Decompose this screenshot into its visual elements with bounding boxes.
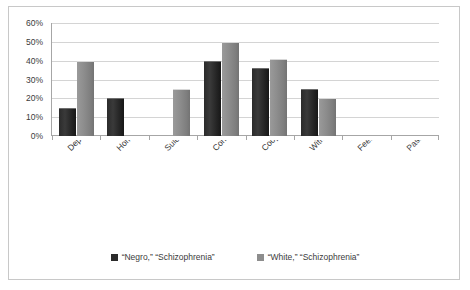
bar-group bbox=[52, 23, 100, 136]
x-axis-labels: DepressedHomosexual, sex role confusion,… bbox=[9, 140, 461, 240]
bar-group bbox=[342, 23, 390, 136]
bar-group bbox=[246, 23, 294, 136]
bar-group bbox=[197, 23, 245, 136]
x-tick-label: Confused bbox=[211, 140, 243, 153]
x-tick-label: Depressed bbox=[66, 140, 101, 153]
chart-legend: “Negro,” “Schizophrenia”“White,” “Schizo… bbox=[9, 253, 461, 262]
bar-group bbox=[294, 23, 342, 136]
y-tick-label: 30% bbox=[26, 75, 43, 84]
bar bbox=[222, 42, 239, 136]
bar bbox=[173, 89, 190, 136]
y-tick-label: 10% bbox=[26, 113, 43, 122]
y-tick-label: 50% bbox=[26, 38, 43, 47]
bar-group bbox=[149, 23, 197, 136]
legend-entry[interactable]: “White,” “Schizophrenia” bbox=[257, 253, 360, 262]
bar bbox=[301, 89, 318, 136]
x-tick-label: Passive bbox=[405, 140, 432, 153]
legend-swatch-icon bbox=[257, 254, 264, 261]
x-tick-label: Cooperative bbox=[260, 140, 298, 153]
bar bbox=[252, 68, 269, 136]
bar bbox=[59, 108, 76, 136]
chart-figure: 60%50%40%30%20%10%0% DepressedHomosexual… bbox=[8, 6, 460, 280]
y-tick-label: 0% bbox=[31, 132, 43, 141]
bar bbox=[77, 61, 94, 136]
y-tick-label: 60% bbox=[26, 19, 43, 28]
x-tick-label: Homosexual, sex role confusion, bbox=[115, 140, 208, 153]
bar bbox=[107, 98, 124, 136]
y-tick-label: 20% bbox=[26, 94, 43, 103]
x-tick-label: Feeble (minded) bbox=[356, 140, 406, 153]
bar bbox=[204, 61, 221, 136]
legend-entry[interactable]: “Negro,” “Schizophrenia” bbox=[111, 253, 215, 262]
x-tick-label: Suicidal bbox=[163, 140, 190, 153]
x-tick-label: Withdrawn bbox=[308, 140, 342, 153]
y-tick-label: 40% bbox=[26, 56, 43, 65]
legend-label: “Negro,” “Schizophrenia” bbox=[122, 253, 215, 262]
legend-label: “White,” “Schizophrenia” bbox=[268, 253, 360, 262]
bar-group bbox=[391, 23, 439, 136]
bar bbox=[270, 59, 287, 136]
y-axis: 60%50%40%30%20%10%0% bbox=[9, 23, 47, 136]
legend-swatch-icon bbox=[111, 254, 118, 261]
bar bbox=[319, 98, 336, 136]
bars-layer bbox=[52, 23, 439, 136]
bar-group bbox=[100, 23, 148, 136]
